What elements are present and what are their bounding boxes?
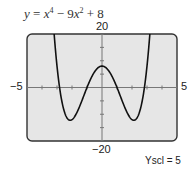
plot-area xyxy=(0,0,193,171)
